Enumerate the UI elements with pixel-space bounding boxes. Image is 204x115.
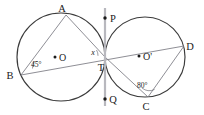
segment-CD	[148, 46, 184, 97]
geometry-diagram-canvas: A B T D C P Q O O' 45° 80° x	[0, 0, 204, 115]
center-label-O: O	[59, 52, 66, 63]
center-dot-O	[54, 56, 57, 59]
angle-label-x: x	[90, 48, 95, 57]
segment-AB	[21, 15, 66, 75]
angle-label-45: 45°	[31, 60, 42, 69]
point-label-B: B	[6, 70, 13, 81]
endpoint-dot-Q	[103, 97, 106, 100]
point-label-C: C	[142, 101, 149, 112]
point-label-P: P	[110, 13, 116, 24]
angle-label-80: 80°	[137, 81, 148, 90]
center-dot-O-prime	[138, 55, 141, 58]
angle-arc-at-T	[97, 50, 99, 56]
point-label-Q: Q	[109, 94, 117, 105]
point-label-A: A	[58, 3, 66, 14]
segment-TC	[105, 57, 148, 97]
point-label-T: T	[98, 62, 105, 73]
point-label-D: D	[186, 41, 194, 52]
endpoint-dot-P	[103, 16, 106, 19]
geometry-figure: A B T D C P Q O O' 45° 80° x	[0, 0, 204, 115]
center-label-O-prime: O'	[143, 51, 152, 62]
